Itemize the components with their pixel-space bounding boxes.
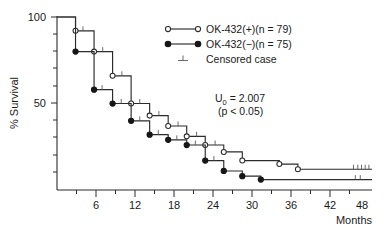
y-major-ticks (51, 17, 57, 103)
open-circle-marker (295, 167, 300, 172)
open-circle-icon (195, 26, 200, 31)
x-tick-label-6: 6 (93, 199, 99, 211)
x-tick-label-12: 12 (129, 199, 141, 211)
u-equals-value: = 2.007 (227, 92, 265, 104)
x-tick-label-48: 48 (356, 199, 368, 211)
x-tick-label-18: 18 (168, 199, 180, 211)
x-tick-labels: 6 12 18 24 30 36 42 48 (93, 199, 368, 211)
x-ticks (77, 190, 350, 197)
legend-item-ok432-positive: OK-432(+)(n = 79) (165, 23, 291, 35)
legend-item-ok432-negative: OK-432(−)(n = 75) (165, 38, 292, 50)
open-circle-marker (147, 113, 152, 118)
y-axis-title: % Survival (8, 77, 20, 129)
x-tick-label-24: 24 (207, 199, 219, 211)
filled-circle-marker (221, 168, 226, 173)
legend-label-ok432-positive: OK-432(+)(n = 79) (206, 23, 292, 35)
open-circle-marker (221, 149, 226, 154)
filled-circle-marker (73, 49, 78, 54)
legend: OK-432(+)(n = 79) OK-432(−)(n = 75) Cens… (165, 23, 292, 65)
survival-chart: 100 50 % Survival 6 12 18 24 (0, 0, 385, 231)
filled-circle-marker (184, 142, 189, 147)
x-tick-label-36: 36 (285, 199, 297, 211)
filled-circle-marker (240, 174, 245, 179)
open-circle-marker (277, 162, 282, 167)
y-tick-label-50: 50 (34, 97, 46, 109)
filled-circle-marker (91, 87, 96, 92)
legend-label-censored: Censored case (206, 53, 277, 65)
chart-canvas: 100 50 % Survival 6 12 18 24 (0, 0, 385, 231)
open-circle-marker (240, 158, 245, 163)
filled-circle-marker (258, 177, 263, 182)
filled-circle-marker (110, 101, 115, 106)
y-tick-label-100: 100 (28, 11, 46, 23)
u-prefix: U (215, 92, 223, 104)
legend-label-ok432-negative: OK-432(−)(n = 75) (206, 38, 292, 50)
x-axis-title: Months (336, 214, 373, 226)
filled-circle-marker (147, 132, 152, 137)
filled-circle-marker (203, 158, 208, 163)
x-tick-label-42: 42 (324, 199, 336, 211)
legend-item-censored: Censored case (178, 53, 277, 65)
filled-circle-marker (129, 118, 134, 123)
filled-circle-marker (166, 137, 171, 142)
x-tick-label-30: 30 (246, 199, 258, 211)
filled-circle-icon (195, 41, 201, 47)
filled-circle-icon (165, 41, 171, 47)
statistics-annotation: U0 = 2.007 (p < 0.05) (215, 92, 265, 117)
open-circle-marker (110, 73, 115, 78)
open-circle-icon (165, 26, 170, 31)
open-circle-marker (184, 134, 189, 139)
open-circle-marker (166, 123, 171, 128)
statistic-p-value: (p < 0.05) (218, 105, 263, 117)
